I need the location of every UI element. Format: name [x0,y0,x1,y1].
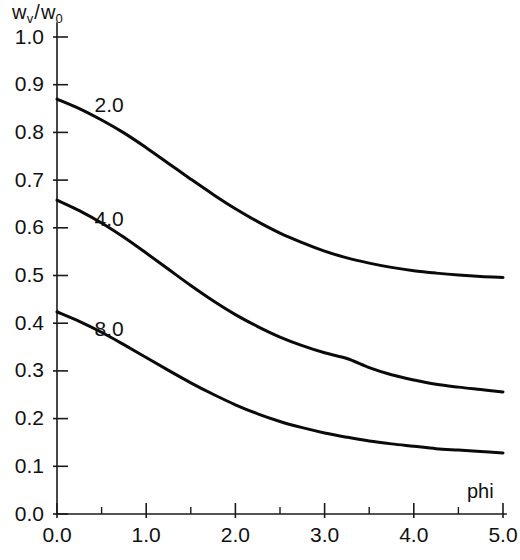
curve-label-2-0: 2.0 [94,93,123,116]
curve-label-8-0: 8.0 [94,317,123,340]
y-tick-label: 0.7 [15,168,44,191]
x-tick-label: 5.0 [488,523,517,546]
y-tick-label: 0.5 [15,263,44,286]
x-axis-tick-labels: 0.01.02.03.04.05.0 [42,523,517,546]
data-curve-4-0 [57,200,503,392]
y-tick-label: 1.0 [15,25,44,48]
x-tick-label: 1.0 [132,523,161,546]
y-tick-label: 0.9 [15,72,44,95]
data-curve-2-0 [57,99,503,277]
y-axis-tick-labels: 0.00.10.20.30.40.50.60.70.80.91.0 [15,25,45,525]
axes-group [57,23,506,514]
data-curves-group [57,99,503,453]
x-tick-label: 3.0 [310,523,339,546]
curve-label-4-0: 4.0 [94,207,123,230]
x-tick-label: 0.0 [42,523,71,546]
y-tick-label: 0.4 [15,311,45,334]
y-tick-label: 0.8 [15,120,44,143]
x-tick-label: 2.0 [221,523,250,546]
data-curve-8-0 [57,312,503,453]
x-tick-label: 4.0 [399,523,428,546]
y-tick-label: 0.3 [15,358,44,381]
y-tick-label: 0.1 [15,454,44,477]
y-tick-label: 0.0 [15,502,44,525]
chart-figure: wv/w0 phi 0.00.10.20.30.40.50.60.70.80.9… [0,0,520,560]
y-tick-label: 0.2 [15,406,44,429]
plot-area: 0.00.10.20.30.40.50.60.70.80.91.0 0.01.0… [0,0,520,560]
y-tick-label: 0.6 [15,215,44,238]
